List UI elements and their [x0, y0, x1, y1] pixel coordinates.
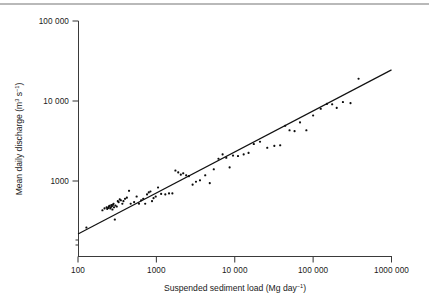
data-point	[136, 195, 138, 197]
data-point	[130, 203, 132, 205]
y-axis-ticks	[73, 21, 79, 245]
data-point	[151, 200, 153, 202]
x-tick-label: 1000	[147, 266, 166, 275]
data-point	[122, 200, 124, 202]
data-point	[284, 125, 286, 127]
data-point	[168, 192, 170, 194]
figure-container: 100010 000100 000 100100010 000100 00010…	[0, 0, 429, 304]
data-point	[320, 108, 322, 110]
data-point	[331, 103, 333, 105]
data-point	[152, 197, 154, 199]
y-tick-label: 100 000	[39, 17, 70, 26]
data-point	[222, 153, 224, 155]
data-point	[279, 144, 281, 146]
y-axis-tick-labels: 100010 000100 000	[39, 17, 70, 186]
data-point	[266, 147, 268, 149]
data-point	[349, 102, 351, 104]
data-point	[121, 203, 123, 205]
data-point	[146, 193, 148, 195]
data-point	[358, 78, 360, 80]
y-axis-title: Mean daily discharge (m3 s−1)	[14, 83, 24, 196]
x-axis-tick-labels: 100100010 000100 0001000 000	[71, 266, 409, 275]
data-point	[164, 193, 166, 195]
x-tick-label: 100	[71, 266, 85, 275]
regression-line	[78, 70, 392, 234]
y-tick-label: 10 000	[43, 97, 69, 106]
scatter-plot: 100010 000100 000 100100010 000100 00010…	[0, 0, 429, 304]
data-point	[248, 152, 250, 154]
data-point	[140, 199, 142, 201]
data-point	[160, 193, 162, 195]
data-point	[199, 179, 201, 181]
data-point	[273, 145, 275, 147]
data-point	[126, 197, 128, 199]
data-point	[204, 174, 206, 176]
data-point	[185, 174, 187, 176]
data-point	[155, 195, 157, 197]
data-point	[294, 130, 296, 132]
data-points	[85, 78, 359, 229]
data-point	[174, 170, 176, 172]
data-point	[142, 198, 144, 200]
data-point	[288, 129, 290, 131]
y-tick-label: 1000	[50, 177, 69, 186]
x-axis-title: Suspended sediment load (Mg day−1)	[164, 283, 306, 293]
data-point	[253, 143, 255, 145]
data-point	[103, 207, 105, 209]
data-point	[113, 206, 115, 208]
data-point	[237, 155, 239, 157]
x-tick-label: 100 000	[298, 266, 329, 275]
data-point	[217, 158, 219, 160]
data-point	[232, 155, 234, 157]
data-point	[133, 201, 135, 203]
data-point	[112, 203, 114, 205]
data-point	[85, 226, 87, 228]
data-point	[182, 172, 184, 174]
data-point	[116, 205, 118, 207]
data-point	[213, 168, 215, 170]
x-axis-ticks	[78, 257, 392, 263]
data-point	[118, 201, 120, 203]
data-point	[192, 184, 194, 186]
data-point	[326, 103, 328, 105]
data-point	[171, 192, 173, 194]
data-point	[225, 157, 227, 159]
data-point	[111, 208, 113, 210]
data-point	[177, 171, 179, 173]
data-point	[336, 107, 338, 109]
x-tick-label: 10 000	[222, 266, 248, 275]
data-point	[120, 199, 122, 201]
data-point	[128, 190, 130, 192]
data-point	[305, 129, 307, 131]
data-point	[157, 186, 159, 188]
data-point	[259, 141, 261, 143]
data-point	[188, 175, 190, 177]
page-rule	[0, 3, 429, 5]
data-point	[312, 114, 314, 116]
data-point	[243, 153, 245, 155]
data-point	[195, 181, 197, 183]
data-point	[144, 203, 146, 205]
data-point	[229, 166, 231, 168]
data-point	[101, 209, 103, 211]
data-point	[124, 198, 126, 200]
data-point	[180, 174, 182, 176]
data-point	[138, 203, 140, 205]
data-point	[342, 101, 344, 103]
data-point	[149, 190, 151, 192]
x-tick-label: 1000 000	[374, 266, 409, 275]
data-point	[114, 218, 116, 220]
data-point	[299, 121, 301, 123]
data-point	[209, 182, 211, 184]
